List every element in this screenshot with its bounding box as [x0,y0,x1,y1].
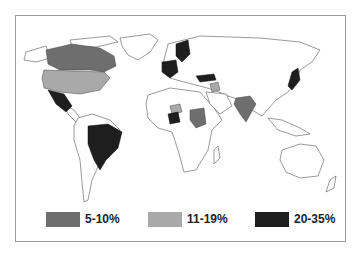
legend-item-high: 20-35% [255,211,335,227]
legend-item-mid: 11-19% [148,211,228,227]
region-usa [42,70,110,94]
region-iraq [210,82,220,92]
legend-swatch-low [46,212,80,227]
legend-label-low: 5-10% [85,212,120,226]
legend-item-low: 5-10% [46,211,120,227]
legend-label-high: 20-35% [294,212,335,226]
region-nigeria [168,112,180,124]
region-mexico [48,90,72,112]
region-india [234,96,256,122]
region-canada [46,44,116,72]
legend-label-mid: 11-19% [187,212,228,226]
legend-swatch-mid [148,212,182,227]
greenland [120,34,158,60]
legend-swatch-high [255,212,289,227]
